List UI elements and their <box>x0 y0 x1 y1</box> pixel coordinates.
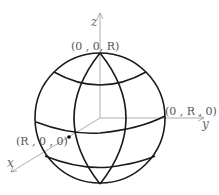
x-point-label: (R , 0 , 0) <box>16 135 68 148</box>
y-point-label: (0 , R , 0) <box>165 105 217 118</box>
north-pole-label: (0 , 0, R) <box>71 40 119 53</box>
z-axis-label: z <box>90 15 98 29</box>
sphere-diagram: z y x (0 , 0, R) (0 , R , 0) (R , 0 , 0) <box>0 0 219 195</box>
y-axis-label: y <box>201 117 209 131</box>
x-axis-label: x <box>7 156 14 170</box>
meridian-left <box>74 53 100 184</box>
latitude-equator <box>36 116 165 133</box>
latitude-lower <box>45 156 155 168</box>
